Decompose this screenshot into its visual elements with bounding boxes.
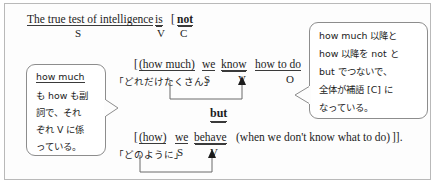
clause-a-gloss: 「どれだけたくさん」 <box>114 74 214 88</box>
clause-b-gloss: 「どのように」 <box>114 147 184 161</box>
callout-left-line-5: っている。 <box>36 139 81 153</box>
clause-b-subordinate: (when we don't know what to do) <box>236 131 390 143</box>
callout-left: how much も how も副 詞で、それ ぞれ V に係 っている。 <box>26 64 106 156</box>
callout-right: how much 以降と how 以降を not と but でつないで、 全体… <box>309 22 428 119</box>
main-verb: is <box>155 13 163 26</box>
label-main-s: S <box>75 27 81 39</box>
clause-b-subject: we <box>175 131 188 144</box>
label-a-o: O <box>286 73 294 85</box>
clause-a-verb: know <box>221 58 247 71</box>
label-b-v: V <box>210 146 218 158</box>
label-b-s: S <box>177 146 183 158</box>
label-a-s: S <box>204 73 210 85</box>
clause-b-adverbial: (how) <box>139 131 166 144</box>
clause-a-object: how to do <box>255 58 301 71</box>
clause-b-bracket-close: ]]. <box>392 131 403 143</box>
callout-right-line-1: how much 以降と <box>319 28 397 42</box>
main-subject: The true test of intelligence <box>27 13 153 26</box>
clause-b-verb: behave <box>194 131 227 144</box>
callout-right-line-3: but でつないで、 <box>319 64 392 78</box>
clause-a-subject: we <box>202 58 215 71</box>
callout-right-line-4: 全体が補語 [C] に <box>319 82 393 96</box>
conjunction-but: but <box>210 106 227 122</box>
callout-left-line-2: も how も副 <box>36 88 88 102</box>
callout-left-line-1: how much <box>36 71 85 83</box>
callout-right-line-5: なっている。 <box>319 100 373 114</box>
main-complement: not <box>177 13 193 26</box>
callout-left-line-4: ぞれ V に係 <box>36 122 84 136</box>
main-bracket-open: [ <box>171 13 175 25</box>
clause-a-adverbial: (how much) <box>139 58 195 71</box>
label-main-v: V <box>157 27 165 39</box>
diagram-root: The true test of intelligence is [ not S… <box>0 0 437 194</box>
callout-right-line-2: how 以降を not と <box>319 46 399 60</box>
label-a-v: V <box>238 73 246 85</box>
callout-left-line-3: 詞で、それ <box>36 105 81 119</box>
clause-a-bracket-open: [ <box>134 58 138 70</box>
label-main-c: C <box>180 27 187 39</box>
clause-b-bracket-open: [ <box>134 131 138 143</box>
